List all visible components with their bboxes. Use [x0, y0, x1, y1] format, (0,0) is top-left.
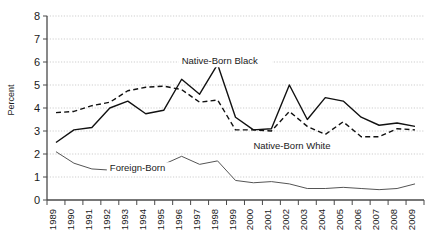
x-tick-label: 1994 — [137, 209, 148, 230]
x-tick-label: 2000 — [244, 209, 255, 230]
x-tick-label: 1998 — [209, 209, 220, 230]
x-tick-label: 1992 — [101, 209, 112, 230]
line-chart-plot: 012345678 198919901991199219931994199519… — [0, 0, 432, 246]
series-annotations: Native-Born BlackNative-Born WhiteForeig… — [107, 55, 344, 174]
x-tick-label: 1991 — [83, 209, 94, 230]
x-tick-label: 1999 — [227, 209, 238, 230]
x-tick-label: 2006 — [352, 209, 363, 230]
x-tick-label: 1996 — [173, 209, 184, 230]
y-tick-label: 3 — [34, 125, 40, 137]
chart-container: Percent 012345678 1989199019911992199319… — [0, 0, 432, 246]
x-tick-label: 2007 — [370, 209, 381, 230]
x-tick-label: 2008 — [388, 209, 399, 230]
y-tick-label: 7 — [34, 33, 40, 45]
y-tick-label: 4 — [34, 102, 40, 114]
series-annotation-label: Foreign-Born — [110, 162, 165, 173]
x-tick-label: 2003 — [298, 209, 309, 230]
x-tick-label: 1990 — [65, 209, 76, 230]
series-annotation-label: Native-Born White — [253, 140, 330, 151]
x-tick-label: 1997 — [191, 209, 202, 230]
gridlines — [43, 16, 424, 200]
y-tick-label: 8 — [34, 10, 40, 22]
y-tick-label: 2 — [34, 148, 40, 160]
x-tick-label: 2002 — [280, 209, 291, 230]
x-tick-label: 2005 — [334, 209, 345, 230]
x-tick-label: 1993 — [119, 209, 130, 230]
y-tick-label: 6 — [34, 56, 40, 68]
x-tick-marks — [47, 200, 424, 205]
y-tick-labels: 012345678 — [34, 10, 40, 206]
series-annotation-label: Native-Born Black — [182, 55, 258, 66]
y-tick-label: 1 — [34, 171, 40, 183]
x-tick-label: 2004 — [316, 209, 327, 230]
x-tick-labels: 1989199019911992199319941995199619971998… — [47, 209, 417, 230]
x-tick-label: 1995 — [155, 209, 166, 230]
y-tick-label: 0 — [34, 194, 40, 206]
x-tick-label: 2009 — [406, 209, 417, 230]
series-line-native-born-white — [56, 86, 415, 137]
x-tick-label: 1989 — [47, 209, 58, 230]
y-tick-label: 5 — [34, 79, 40, 91]
x-tick-label: 2001 — [262, 209, 273, 230]
